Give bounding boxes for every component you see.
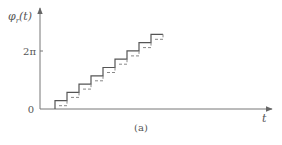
y-axis-label: φr(t) bbox=[8, 10, 32, 25]
figure-caption: (a) bbox=[134, 122, 148, 133]
y-tick-label-2pi: 2π bbox=[23, 46, 36, 57]
phase-staircase-diagram: φr(t) 2π 0 t (a) bbox=[0, 0, 282, 145]
x-axis-label: t bbox=[262, 112, 267, 125]
y-tick-label-0: 0 bbox=[28, 104, 34, 115]
dashed-staircase bbox=[59, 33, 163, 106]
